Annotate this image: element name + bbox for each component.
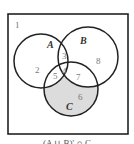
region-label-7: 7	[76, 72, 81, 82]
region-label-3: 3	[62, 51, 67, 61]
set-label-a: A	[46, 39, 54, 50]
region-label-6: 6	[78, 92, 83, 102]
region-label-2: 2	[35, 65, 40, 75]
set-label-c: C	[66, 101, 73, 112]
region-label-4: 4	[62, 66, 67, 76]
region-label-5: 5	[53, 71, 58, 81]
caption: (A ∪ B)' ∩ C	[43, 138, 91, 144]
set-label-b: B	[79, 35, 87, 46]
region-label-1: 1	[15, 20, 20, 30]
region-label-8: 8	[96, 56, 101, 66]
venn-diagram: A B C 1 2 3 4 5 6 7 8 (A ∪ B)' ∩ C	[0, 0, 134, 144]
